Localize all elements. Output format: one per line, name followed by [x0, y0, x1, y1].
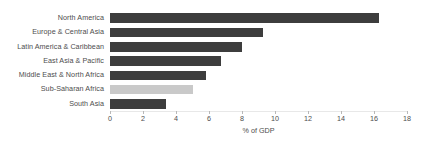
x-axis-title: % of GDP: [110, 126, 407, 135]
bar-europe-central-asia: [110, 28, 263, 38]
bar-row: [110, 40, 407, 54]
x-tick-label-0: 0: [95, 114, 125, 123]
bar-row: [110, 68, 407, 82]
plot-area: [110, 11, 407, 111]
bar-row: [110, 82, 407, 96]
bar-south-asia: [110, 99, 166, 109]
bar-middle-east-north-africa: [110, 71, 206, 81]
bar-chart: North America Europe & Central Asia Lati…: [0, 0, 422, 141]
bar-row: [110, 97, 407, 111]
x-tick-label-12: 12: [293, 114, 323, 123]
category-label-north-america: North America: [0, 11, 104, 25]
x-tick-label-14: 14: [326, 114, 356, 123]
x-tick-label-2: 2: [128, 114, 158, 123]
category-label-latin-america-caribbean: Latin America & Caribbean: [0, 40, 104, 54]
x-tick-label-16: 16: [359, 114, 389, 123]
x-tick-label-6: 6: [194, 114, 224, 123]
category-label-sub-saharan-africa: Sub-Saharan Africa: [0, 82, 104, 96]
x-tick-label-10: 10: [260, 114, 290, 123]
bar-east-asia-pacific: [110, 56, 221, 66]
category-axis-labels: North America Europe & Central Asia Lati…: [0, 11, 104, 111]
category-label-middle-east-north-africa: Middle East & North Africa: [0, 68, 104, 82]
bar-latin-america-caribbean: [110, 42, 242, 52]
bar-north-america: [110, 13, 379, 23]
category-label-south-asia: South Asia: [0, 97, 104, 111]
bar-row: [110, 25, 407, 39]
bar-sub-saharan-africa: [110, 85, 193, 95]
x-tick-label-8: 8: [227, 114, 257, 123]
bar-row: [110, 11, 407, 25]
category-label-east-asia-pacific: East Asia & Pacific: [0, 54, 104, 68]
bar-row: [110, 54, 407, 68]
category-label-europe-central-asia: Europe & Central Asia: [0, 25, 104, 39]
x-tick-label-18: 18: [392, 114, 422, 123]
x-tick-label-4: 4: [161, 114, 191, 123]
x-axis-line: [110, 111, 407, 112]
